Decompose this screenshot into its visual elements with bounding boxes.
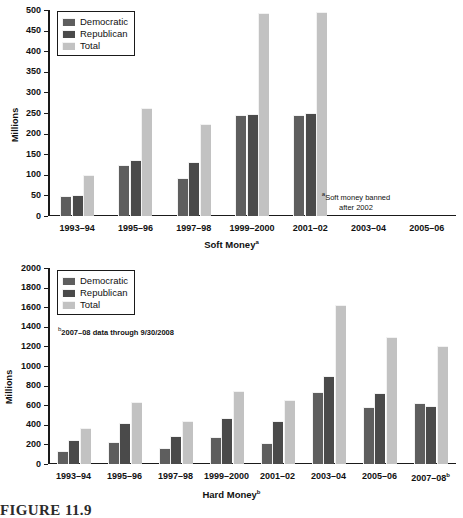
legend-swatch-total-icon [62,301,75,309]
bar-rep [119,423,130,464]
x-tick-label: 1997–98 [164,224,224,233]
x-axis-title-soft-text: Soft Money [204,239,255,250]
bar-rep [72,195,83,216]
legend-hard: Democratic Republican Total [57,270,135,315]
legend-item-republican: Republican [62,28,128,39]
bar-rep [130,160,141,216]
bar-cluster [261,268,295,464]
legend-label-total: Total [80,41,100,51]
bar-tot [131,402,142,464]
bar-tot [233,391,244,465]
bar-dem [57,451,68,464]
annotation-text: 2007–08 data through 9/30/2008 [61,328,174,337]
chart-hard-money: Millions 0200400600800100012001400160018… [0,258,463,518]
y-tick-label: 0 [36,212,41,221]
legend-item-democratic: Democratic [62,275,128,286]
bar-rep [374,393,385,464]
bar-tot [335,305,346,464]
bar-rep [188,162,199,216]
legend-swatch-total-icon [62,42,75,50]
x-tick-label: 2003–04 [339,224,399,233]
bar-cluster [414,268,448,464]
y-tick-label: 1400 [21,322,41,331]
bar-dem [363,407,374,464]
bar-rep [221,418,232,464]
bar-cluster [312,268,346,464]
bar-rep [247,114,258,216]
y-axis-label-hard: Millions [4,370,14,404]
bar-tot [316,12,327,216]
bar-cluster [159,268,193,464]
bar-tot [200,124,211,216]
bar-cluster [352,10,386,216]
bar-dem [159,448,170,464]
x-axis-title-soft-superscript: a [255,239,258,245]
legend-swatch-republican-icon [62,30,75,38]
x-tick-label: 1995–96 [105,224,165,233]
x-tick-label: 1999–2000 [222,224,282,233]
legend-item-total: Total [62,40,128,51]
x-tick-label: 2001–02 [280,224,340,233]
bar-tot [141,108,152,216]
y-tick-mark [44,216,48,217]
y-tick-label: 1600 [21,303,41,312]
bar-tot [80,428,91,464]
x-axis-title-soft: Soft Moneya [0,239,463,250]
legend-item-democratic: Democratic [62,16,128,27]
legend-label-total: Total [80,300,100,310]
bar-tot [258,13,269,216]
bar-dem [177,178,188,216]
x-tick-label: 1993–94 [47,224,107,233]
legend-item-republican: Republican [62,287,128,298]
legend-swatch-democratic-icon [62,277,75,285]
bar-rep [170,436,181,464]
bar-tot [437,346,448,464]
y-tick-label: 200 [26,440,41,449]
bar-rep [272,421,283,464]
legend-item-total: Total [62,299,128,310]
chart-soft-money: Millions 050100150200250300350400450500 … [0,0,463,258]
bar-cluster [235,10,269,216]
y-tick-label: 400 [26,47,41,56]
bar-dem [312,392,323,464]
bar-cluster [410,10,444,216]
bar-rep [425,406,436,464]
bar-dem [414,403,425,464]
y-tick-label: 1000 [21,362,41,371]
figure-caption-text: FIGURE 11.9 [0,504,463,517]
figure-caption: FIGURE 11.9 [0,504,463,518]
annotation-soft-money-banned: aSoft money banned after 2002 [292,190,420,213]
figure-campaign-finance: Millions 050100150200250300350400450500 … [0,0,463,518]
legend-swatch-republican-icon [62,289,75,297]
bar-dem [210,437,221,464]
y-tick-label: 800 [26,381,41,390]
bar-tot [83,175,94,216]
y-tick-label: 100 [26,170,41,179]
y-tick-label: 300 [26,88,41,97]
y-tick-label: 200 [26,129,41,138]
annotation-line-1: Soft money banned [325,193,390,202]
y-tick-label: 450 [26,26,41,35]
y-axis-label-soft: Millions [10,108,20,142]
y-tick-label: 1200 [21,342,41,351]
y-tick-label: 600 [26,401,41,410]
y-tick-label: 500 [26,6,41,15]
bar-cluster [210,268,244,464]
x-axis-title-hard-superscript: b [257,489,261,495]
legend-label-democratic: Democratic [80,17,128,27]
y-tick-label: 2000 [21,264,41,273]
annotation-line-2: after 2002 [339,203,373,212]
y-tick-label: 400 [26,420,41,429]
legend-label-republican: Republican [80,288,128,298]
x-tick-label: 2005–06 [397,224,457,233]
x-tick-label-superscript: b [446,472,450,478]
y-tick-mark [44,464,48,465]
bar-cluster [293,10,327,216]
y-tick-label: 0 [36,460,41,469]
y-tick-label: 350 [26,67,41,76]
bar-dem [118,165,129,216]
x-axis-title-hard: Hard Moneyb [0,489,463,500]
bar-dem [235,115,246,216]
y-tick-label: 1800 [21,283,41,292]
legend-label-democratic: Democratic [80,276,128,286]
